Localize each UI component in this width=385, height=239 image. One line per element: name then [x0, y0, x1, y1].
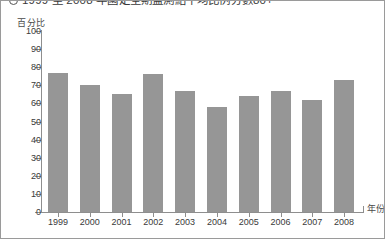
bar-2006	[271, 91, 291, 212]
y-tick-label: 70	[13, 80, 41, 90]
bar-1999	[48, 73, 68, 212]
y-tick-label: 60	[13, 98, 41, 108]
y-tick-label: 90	[13, 44, 41, 54]
x-axis-label: 年份	[367, 202, 385, 215]
y-tick-label: 10	[13, 189, 41, 199]
circle-marker-icon	[9, 0, 18, 5]
bar-2007	[302, 100, 322, 212]
y-tick-label: 40	[13, 135, 41, 145]
bar-2008	[334, 80, 354, 212]
x-axis-end-cap	[363, 206, 364, 213]
y-tick-label: 80	[13, 62, 41, 72]
bar-2005	[239, 96, 259, 212]
y-tick-label: 100	[13, 26, 41, 36]
bar-2000	[80, 85, 100, 212]
chart-title: 1999 至 2008 年國定全期監測結千均比例分數80+	[9, 0, 273, 7]
chart-title-text: 1999 至 2008 年國定全期監測結千均比例分數80+	[22, 0, 273, 7]
bar-2002	[143, 74, 163, 212]
y-tick-label: 30	[13, 153, 41, 163]
y-tick-label: 50	[13, 117, 41, 127]
chart-screenshot: 1999 至 2008 年國定全期監測結千均比例分數80+ 百分比 100908…	[0, 0, 385, 239]
plot-area	[42, 31, 360, 212]
x-tick-label-2008: 2008	[324, 217, 364, 227]
bar-2004	[207, 107, 227, 212]
y-tick-label: 0	[13, 207, 41, 217]
y-tick-label: 20	[13, 171, 41, 181]
bar-2003	[175, 91, 195, 212]
bar-2001	[112, 94, 132, 212]
